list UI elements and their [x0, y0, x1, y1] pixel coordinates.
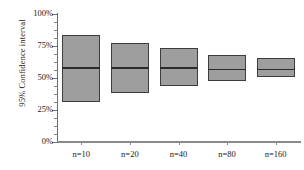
x-tick-n=20: [130, 141, 131, 145]
y-tick-label-100: 100%: [33, 9, 53, 17]
y-tick-label-50: 50%: [37, 73, 53, 81]
ci-center-line-n=10: [62, 67, 100, 69]
x-tick-n=10: [81, 141, 82, 145]
ci-center-line-n=80: [208, 69, 246, 71]
y-tick-label-75: 75%: [37, 41, 53, 49]
y-axis-title: 95% Confidence interval: [17, 0, 27, 128]
x-tick-n=40: [179, 141, 180, 145]
plot-area: [57, 14, 300, 142]
x-tick-n=160: [276, 141, 277, 145]
y-tick-label-0: 0%: [42, 137, 53, 145]
ci-center-line-n=160: [257, 69, 295, 71]
x-tick-n=80: [227, 141, 228, 145]
ci-center-line-n=20: [111, 67, 149, 69]
ci-center-line-n=40: [160, 67, 198, 69]
chart-figure: 95% Confidence interval 0%25%50%75%100% …: [0, 0, 304, 170]
x-tick-label-n=160: n=160: [246, 150, 304, 159]
y-tick-label-25: 25%: [37, 105, 53, 113]
